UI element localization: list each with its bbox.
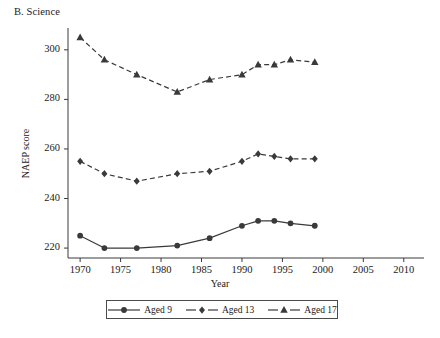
legend-item[interactable]: Aged 17	[267, 304, 336, 316]
y-tick-label: 220	[26, 241, 60, 252]
data-point-marker	[311, 58, 318, 65]
data-point-marker	[134, 245, 140, 251]
x-tick-label: 1980	[139, 264, 183, 275]
series-line	[80, 154, 315, 181]
legend-label: Aged 13	[222, 305, 254, 315]
data-point-marker	[134, 178, 140, 185]
data-point-marker	[312, 155, 318, 162]
data-point-marker	[174, 170, 180, 177]
y-tick-label: 280	[26, 92, 60, 103]
x-tick-label: 2010	[382, 264, 426, 275]
data-point-marker	[207, 235, 213, 241]
x-tick-label: 2000	[301, 264, 345, 275]
axes	[68, 28, 424, 258]
y-tick-label: 240	[26, 192, 60, 203]
legend-item[interactable]: Aged 13	[185, 304, 254, 316]
data-point-marker	[101, 170, 107, 177]
data-point-marker	[255, 150, 261, 157]
x-tick-label: 1985	[180, 264, 224, 275]
data-series-group	[76, 34, 318, 251]
legend-label: Aged 17	[304, 305, 336, 315]
data-point-marker	[239, 223, 245, 229]
x-tick-label: 1975	[99, 264, 143, 275]
data-point-marker	[239, 158, 245, 165]
x-tick-label: 1970	[58, 264, 102, 275]
legend-marker-triangle-icon	[267, 304, 301, 316]
data-point-marker	[76, 34, 83, 41]
series-line	[80, 37, 315, 92]
data-series	[76, 34, 318, 95]
legend-label: Aged 9	[144, 305, 172, 315]
data-point-marker	[77, 233, 83, 239]
data-point-marker	[255, 218, 261, 224]
chart-legend: Aged 9Aged 13Aged 17	[106, 300, 338, 319]
x-tick-label: 1990	[220, 264, 264, 275]
data-point-marker	[102, 245, 108, 251]
data-point-marker	[174, 243, 180, 249]
plot-area	[0, 0, 440, 338]
data-point-marker	[288, 155, 294, 162]
data-point-marker	[288, 220, 294, 226]
science-naep-chart-figure: B. Science NAEP score Year 2202402602803…	[0, 0, 440, 338]
legend-item[interactable]: Aged 9	[107, 304, 172, 316]
data-point-marker	[271, 218, 277, 224]
data-point-marker	[312, 223, 318, 229]
data-point-marker	[238, 71, 245, 78]
data-series	[77, 150, 318, 185]
x-tick-label: 2005	[341, 264, 385, 275]
data-point-marker	[207, 168, 213, 175]
x-tick-label: 1995	[260, 264, 304, 275]
data-point-marker	[271, 153, 277, 160]
legend-marker-diamond-icon	[185, 304, 219, 316]
y-tick-label: 300	[26, 43, 60, 54]
y-tick-label: 260	[26, 142, 60, 153]
tick-marks	[64, 50, 404, 262]
data-point-marker	[287, 56, 294, 63]
data-series	[77, 218, 317, 251]
series-line	[80, 221, 315, 248]
legend-marker-circle-icon	[107, 304, 141, 316]
data-point-marker	[77, 158, 83, 165]
